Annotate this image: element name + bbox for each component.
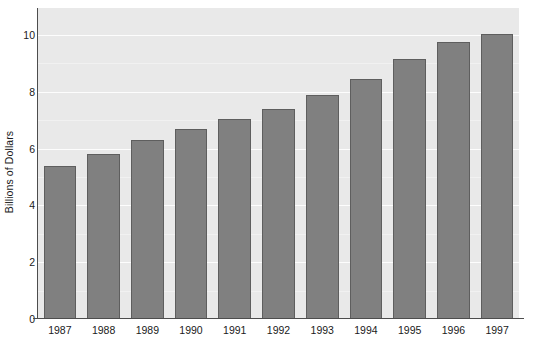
bar-1991 bbox=[218, 119, 251, 319]
y-tick-label-4: 4 bbox=[29, 199, 35, 211]
x-tick-label-1987: 1987 bbox=[48, 324, 71, 336]
y-axis-tick-labels: 0246810 bbox=[18, 0, 38, 343]
bar-1987 bbox=[44, 166, 77, 319]
x-tick-label-1993: 1993 bbox=[311, 324, 334, 336]
y-tick-label-0: 0 bbox=[29, 313, 35, 325]
y-axis-title-text: Billions of Dollars bbox=[3, 130, 15, 212]
y-tick-label-8: 8 bbox=[29, 86, 35, 98]
x-axis-line bbox=[33, 318, 524, 319]
y-axis-title: Billions of Dollars bbox=[0, 0, 18, 343]
plot-area bbox=[38, 8, 519, 319]
bar-1997 bbox=[481, 34, 514, 319]
y-axis-line bbox=[37, 8, 38, 319]
bar-1994 bbox=[350, 79, 383, 319]
x-tick-label-1997: 1997 bbox=[485, 324, 508, 336]
x-tick-label-1991: 1991 bbox=[223, 324, 246, 336]
bar-1993 bbox=[306, 95, 339, 319]
bar-1996 bbox=[437, 42, 470, 319]
bar-chart: Billions of Dollars 0246810 198719881989… bbox=[0, 0, 539, 343]
bar-1988 bbox=[87, 154, 120, 319]
y-tick-label-10: 10 bbox=[23, 29, 35, 41]
x-tick-label-1996: 1996 bbox=[442, 324, 465, 336]
bar-1989 bbox=[131, 140, 164, 319]
bar-1992 bbox=[262, 109, 295, 319]
bar-1990 bbox=[175, 129, 208, 319]
y-tick-label-6: 6 bbox=[29, 143, 35, 155]
bar-1995 bbox=[393, 59, 426, 319]
x-tick-label-1994: 1994 bbox=[354, 324, 377, 336]
x-axis-tick-labels: 1987198819891990199119921993199419951996… bbox=[38, 322, 519, 343]
y-tick-label-2: 2 bbox=[29, 256, 35, 268]
bars-layer bbox=[38, 8, 519, 319]
x-tick-label-1992: 1992 bbox=[267, 324, 290, 336]
x-tick-label-1989: 1989 bbox=[136, 324, 159, 336]
x-tick-label-1995: 1995 bbox=[398, 324, 421, 336]
x-tick-label-1988: 1988 bbox=[92, 324, 115, 336]
x-tick-label-1990: 1990 bbox=[179, 324, 202, 336]
